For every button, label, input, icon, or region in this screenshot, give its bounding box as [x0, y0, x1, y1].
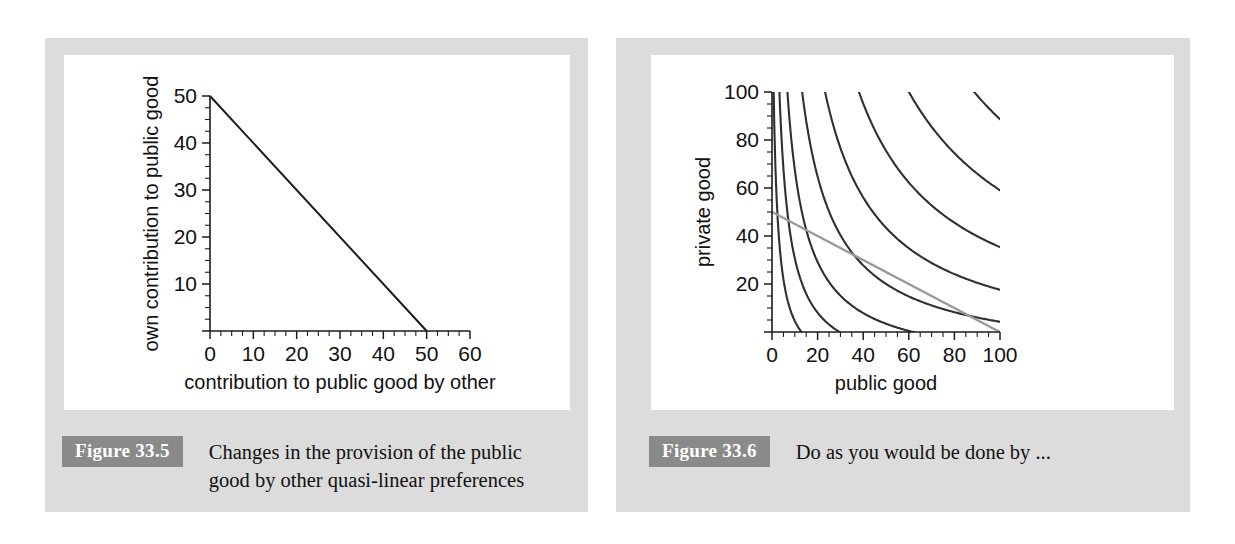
x-tick-label: 100	[982, 343, 1017, 366]
y-tick-label: 30	[174, 178, 197, 201]
x-tick-label: 80	[943, 343, 966, 366]
figure-caption-left: Figure 33.5 Changes in the provision of …	[62, 436, 562, 495]
indifference-curve-8	[948, 0, 1000, 36]
x-tick-label: 30	[328, 342, 351, 365]
figure-caption-text-right: Do as you would be done by ...	[796, 436, 1051, 466]
chart-right-svg: 02040608010020406080100public goodprivat…	[651, 55, 1174, 410]
x-tick-label: 20	[806, 343, 829, 366]
x-tick-label: 0	[766, 343, 778, 366]
indifference-curve-6	[859, 0, 1000, 190]
caption-right-line-1: Do as you would be done by ...	[796, 438, 1051, 466]
figure-page: 01020304050601020304050contribution to p…	[0, 0, 1235, 544]
caption-left-line-2: good by other quasi-linear preferences	[209, 466, 524, 494]
figure-caption-text-left: Changes in the provision of the public g…	[209, 436, 524, 495]
y-tick-label: 50	[174, 84, 197, 107]
caption-left-line-1: Changes in the provision of the public	[209, 438, 524, 466]
y-tick-label: 100	[724, 80, 759, 103]
y-tick-label: 10	[174, 272, 197, 295]
x-tick-label: 60	[458, 342, 481, 365]
y-tick-label: 60	[736, 176, 759, 199]
y-tick-label: 40	[736, 224, 759, 247]
x-axis-title: contribution to public good by other	[184, 371, 496, 393]
figure-badge-left: Figure 33.5	[62, 436, 183, 467]
chart-right-canvas: 02040608010020406080100public goodprivat…	[651, 55, 1174, 410]
y-tick-label: 40	[174, 131, 197, 154]
y-axis-title: own contribution to public good	[140, 76, 162, 352]
x-tick-label: 40	[372, 342, 395, 365]
figure-caption-right: Figure 33.6 Do as you would be done by .…	[649, 436, 1169, 467]
x-tick-label: 0	[204, 342, 216, 365]
x-tick-label: 50	[415, 342, 438, 365]
x-tick-label: 40	[852, 343, 875, 366]
figure-badge-right: Figure 33.6	[649, 436, 770, 467]
y-tick-label: 20	[736, 272, 759, 295]
x-tick-label: 60	[897, 343, 920, 366]
x-tick-label: 20	[285, 342, 308, 365]
y-tick-label: 80	[736, 128, 759, 151]
chart-left-svg: 01020304050601020304050contribution to p…	[64, 55, 570, 410]
reaction-function-line	[210, 96, 427, 331]
x-axis-title: public good	[835, 372, 937, 394]
chart-left-canvas: 01020304050601020304050contribution to p…	[64, 55, 570, 410]
y-axis-title: private good	[692, 157, 714, 267]
y-tick-label: 20	[174, 225, 197, 248]
chart-left-axes	[210, 96, 470, 331]
x-tick-label: 10	[242, 342, 265, 365]
